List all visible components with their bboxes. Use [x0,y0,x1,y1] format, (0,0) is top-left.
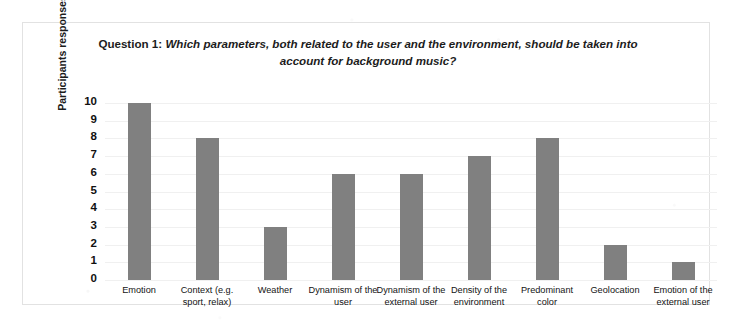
bar [468,156,491,280]
y-axis-tick-label: 1 [73,254,97,266]
x-axis-tick-label: Emotion [102,285,176,297]
bar [128,103,151,280]
chart-container: Question 1: Which parameters, both relat… [22,22,710,305]
bar [332,174,355,280]
bar [400,174,423,280]
x-axis-tick-label: Predominant color [510,285,584,308]
y-axis-tick-label: 8 [73,130,97,142]
y-axis-tick-label: 2 [73,237,97,249]
gridline [105,121,717,122]
bar [196,138,219,280]
bar [604,245,627,280]
x-axis-tick-label: Density of the environment [442,285,516,308]
y-axis-tick-label: 4 [73,201,97,213]
x-axis-tick-label: Dynamism of the user [306,285,380,308]
x-axis-tick-label: Context (e.g. sport, relax) [170,285,244,308]
gridline [105,280,717,281]
y-axis-tick-label: 10 [73,95,97,107]
y-axis-title: Participants responses [56,0,68,133]
gridline [105,103,717,104]
y-axis-tick-label: 6 [73,166,97,178]
plot-area [105,103,717,280]
x-axis-tick-label: Geolocation [578,285,652,297]
y-axis-tick-label: 3 [73,219,97,231]
x-axis-tick-label: Emotion of the external user [646,285,720,308]
x-axis-tick-label: Dynamism of the external user [374,285,448,308]
y-axis-tick-labels: 109876543210 [71,103,97,280]
bar [536,138,559,280]
bar [672,262,695,280]
y-axis-tick-label: 5 [73,184,97,196]
x-axis-tick-labels: EmotionContext (e.g. sport, relax)Weathe… [105,23,717,83]
bar [264,227,287,280]
y-axis-tick-label: 7 [73,148,97,160]
y-axis-tick-label: 9 [73,113,97,125]
y-axis-tick-label: 0 [73,272,97,284]
x-axis-tick-label: Weather [238,285,312,297]
